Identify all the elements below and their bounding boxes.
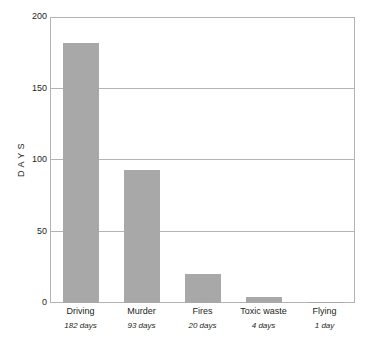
bar-murder — [124, 170, 160, 303]
x-category-value-label: 20 days — [172, 320, 233, 332]
x-category-murder: Murder93 days — [111, 305, 172, 332]
y-tick-label-0: 0 — [7, 298, 47, 307]
x-category-name: Driving — [50, 305, 111, 317]
x-category-name: Flying — [294, 305, 355, 317]
x-category-toxic-waste: Toxic waste4 days — [233, 305, 294, 332]
x-category-name: Murder — [111, 305, 172, 317]
x-category-value-label: 93 days — [111, 320, 172, 332]
bar-driving — [63, 43, 99, 303]
x-axis-labels: Driving182 daysMurder93 daysFires20 days… — [50, 305, 355, 345]
bar-chart: D A Y S 050100150200 Driving182 daysMurd… — [0, 0, 370, 345]
x-category-name: Fires — [172, 305, 233, 317]
bars-layer — [50, 17, 355, 303]
x-category-value-label: 4 days — [233, 320, 294, 332]
y-tick-label-100: 100 — [7, 155, 47, 164]
x-category-driving: Driving182 days — [50, 305, 111, 332]
y-tick-label-150: 150 — [7, 84, 47, 93]
x-category-value-label: 182 days — [50, 320, 111, 332]
y-tick-label-200: 200 — [7, 12, 47, 21]
bar-toxic-waste — [246, 297, 282, 303]
x-category-fires: Fires20 days — [172, 305, 233, 332]
y-tick-label-50: 50 — [7, 227, 47, 236]
x-category-name: Toxic waste — [233, 305, 294, 317]
bar-fires — [185, 274, 221, 303]
x-category-value-label: 1 day — [294, 320, 355, 332]
x-category-flying: Flying1 day — [294, 305, 355, 332]
bar-flying — [307, 302, 343, 304]
